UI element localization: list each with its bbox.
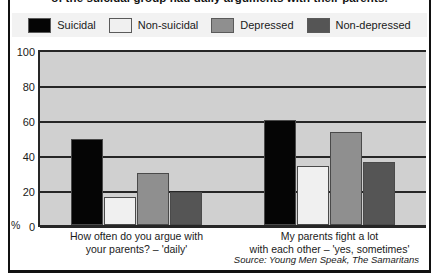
- figure-frame-bottom: [8, 270, 431, 273]
- x-axis-category-label: My parents fight a lotwith each other – …: [233, 230, 426, 256]
- gridline: [40, 86, 426, 88]
- bar-non-depressed-group-2[interactable]: [363, 162, 395, 225]
- chart-title: of the suicidal group had daily argument…: [10, 0, 429, 5]
- y-axis-tick-label: 40: [23, 151, 35, 163]
- y-axis-tick-label: 20: [23, 186, 35, 198]
- plot-wrapper: 020406080100 How often do you argue with…: [40, 50, 426, 228]
- legend-item-non-suicidal[interactable]: Non-suicidal: [109, 18, 199, 33]
- y-axis-tick-label: 80: [23, 81, 35, 93]
- bar-non-suicidal-group-2[interactable]: [297, 166, 329, 226]
- x-axis-category-line: your parents? – 'daily': [40, 243, 233, 256]
- chart-figure: of the suicidal group had daily argument…: [0, 0, 435, 278]
- legend-label: Non-depressed: [336, 19, 411, 31]
- legend-swatch-icon: [307, 18, 330, 33]
- x-axis-category-line: How often do you argue with: [40, 230, 233, 243]
- plot-area: 020406080100: [40, 50, 426, 225]
- legend-swatch-icon: [211, 18, 234, 33]
- y-axis-unit-label: %: [11, 219, 20, 231]
- legend-swatch-icon: [109, 18, 132, 33]
- bar-depressed-group-1[interactable]: [137, 173, 169, 226]
- legend-item-non-depressed[interactable]: Non-depressed: [307, 18, 411, 33]
- figure-frame-right: [429, 0, 431, 272]
- bar-suicidal-group-2[interactable]: [264, 120, 296, 225]
- chart-legend: SuicidalNon-suicidalDepressedNon-depress…: [12, 13, 427, 37]
- x-axis-category-label: How often do you argue withyour parents?…: [40, 230, 233, 256]
- x-axis-category-line: My parents fight a lot: [233, 230, 426, 243]
- legend-label: Suicidal: [57, 19, 96, 31]
- x-axis-line: [40, 225, 426, 227]
- bar-non-suicidal-group-1[interactable]: [104, 197, 136, 225]
- chart-title-container: of the suicidal group had daily argument…: [10, 0, 429, 7]
- bar-depressed-group-2[interactable]: [330, 132, 362, 225]
- y-axis-tick-label: 100: [17, 46, 35, 58]
- legend-item-suicidal[interactable]: Suicidal: [28, 18, 96, 33]
- figure-frame-left: [8, 0, 10, 272]
- bar-suicidal-group-1[interactable]: [71, 139, 103, 225]
- legend-item-depressed[interactable]: Depressed: [211, 18, 293, 33]
- legend-label: Depressed: [240, 19, 293, 31]
- source-note: Source: Young Men Speak, The Samaritans: [234, 254, 419, 265]
- bar-non-depressed-group-1[interactable]: [170, 192, 202, 225]
- y-axis-tick-label: 0: [29, 221, 35, 233]
- legend-label: Non-suicidal: [138, 19, 199, 31]
- y-axis-line: [38, 50, 40, 227]
- gridline: [40, 121, 426, 123]
- legend-swatch-icon: [28, 18, 51, 33]
- y-axis-tick-label: 60: [23, 116, 35, 128]
